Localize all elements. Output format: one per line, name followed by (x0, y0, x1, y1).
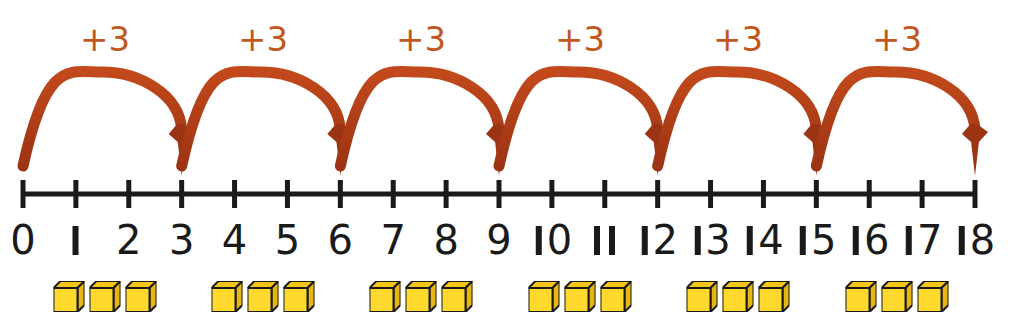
unit-cube (284, 281, 315, 312)
cube-group (846, 281, 949, 312)
tick-label: 0 (10, 220, 35, 260)
cube-side-face (272, 281, 279, 312)
axis-layer (23, 180, 975, 208)
jump-label: +3 (396, 22, 446, 56)
cube-glyph (687, 281, 718, 312)
digit: 4 (758, 217, 783, 263)
cube-side-face (114, 281, 121, 312)
jump-arcs-layer (23, 71, 988, 176)
number-line-diagram: +3+3+3+3+3+3 02345678902345678 (0, 0, 1013, 334)
cube-side-face (430, 281, 437, 312)
cube-glyph (284, 281, 315, 312)
cube-group (529, 281, 632, 312)
tick-label (68, 220, 83, 260)
cube-glyph (248, 281, 279, 312)
unit-cube (442, 281, 473, 312)
jump-arc-12-to-15 (658, 71, 830, 176)
digit-one-stroke (536, 226, 542, 255)
unit-cube (759, 281, 790, 312)
tick-label: 4 (743, 220, 783, 260)
jump-arc-3-to-6 (182, 71, 354, 176)
cube-front-face (759, 288, 783, 312)
cube-side-face (466, 281, 473, 312)
tick-label: 5 (275, 220, 300, 260)
cube-glyph (212, 281, 243, 312)
jump-arc-15-to-18 (816, 71, 988, 176)
cube-glyph (442, 281, 473, 312)
tick-label: 2 (637, 220, 677, 260)
cube-side-face (78, 281, 85, 312)
cube-side-face (150, 281, 157, 312)
cube-front-face (918, 288, 942, 312)
tick-label: 3 (690, 220, 730, 260)
arc-body (499, 71, 658, 166)
arc-arrowhead (962, 124, 988, 176)
cube-front-face (212, 288, 236, 312)
digit-one-stroke (906, 226, 912, 255)
jump-arc-6-to-9 (340, 71, 512, 176)
cube-front-face (882, 288, 906, 312)
arc-body (182, 71, 341, 166)
cube-side-face (747, 281, 754, 312)
digit-one-stroke (853, 226, 859, 255)
cube-front-face (54, 288, 78, 312)
tick-label: 7 (902, 220, 942, 260)
unit-cube (601, 281, 632, 312)
arc-body (23, 71, 182, 166)
unit-cube (212, 281, 243, 312)
unit-cube (54, 281, 85, 312)
tick-label: 9 (486, 220, 511, 260)
tick-label: 6 (328, 220, 353, 260)
cube-glyph (565, 281, 596, 312)
tick-label: 6 (849, 220, 889, 260)
digit-one-stroke (747, 226, 753, 255)
cube-side-face (553, 281, 560, 312)
digit-one-stroke (72, 226, 78, 255)
tick-label: 8 (433, 220, 458, 260)
jump-label: +3 (238, 22, 288, 56)
cube-side-face (589, 281, 596, 312)
cube-glyph (406, 281, 437, 312)
digit-one-stroke (694, 226, 700, 255)
cube-front-face (723, 288, 747, 312)
digit-one-stroke (609, 226, 615, 255)
tick-label: 8 (955, 220, 995, 260)
unit-cube (565, 281, 596, 312)
jump-arc-0-to-3 (23, 71, 195, 176)
tick-label (590, 220, 620, 260)
jump-label: +3 (80, 22, 130, 56)
unit-cube (90, 281, 121, 312)
unit-cube (248, 281, 279, 312)
unit-cube (529, 281, 560, 312)
jump-arc-9-to-12 (499, 71, 671, 176)
digit-one-stroke (959, 226, 965, 255)
tick-label: 4 (222, 220, 247, 260)
cube-side-face (711, 281, 718, 312)
cube-side-face (394, 281, 401, 312)
cube-group (54, 281, 157, 312)
jump-label: +3 (872, 22, 922, 56)
cube-front-face (90, 288, 114, 312)
digit: 0 (547, 217, 572, 263)
cube-side-face (783, 281, 790, 312)
cube-side-face (942, 281, 949, 312)
cube-glyph (90, 281, 121, 312)
cube-front-face (601, 288, 625, 312)
cube-glyph (370, 281, 401, 312)
unit-cube (882, 281, 913, 312)
unit-cube (406, 281, 437, 312)
cube-group (212, 281, 315, 312)
tick-label: 0 (532, 220, 572, 260)
cube-glyph (601, 281, 632, 312)
digit-one-stroke (641, 226, 647, 255)
cube-side-face (870, 281, 877, 312)
cube-front-face (687, 288, 711, 312)
cube-glyph (918, 281, 949, 312)
cube-glyph (529, 281, 560, 312)
digit: 8 (970, 217, 995, 263)
cube-group (370, 281, 473, 312)
cube-side-face (308, 281, 315, 312)
tick-label: 2 (116, 220, 141, 260)
cube-side-face (625, 281, 632, 312)
cube-front-face (406, 288, 430, 312)
